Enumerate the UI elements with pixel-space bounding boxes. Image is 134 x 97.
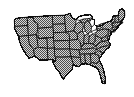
us-map-figure: United States map (0, 0, 134, 97)
state-kansas (54, 40, 70, 49)
state-arkansas (70, 49, 80, 58)
state-wyoming (38, 27, 54, 39)
state-oklahoma (55, 49, 72, 57)
state-north-dakota (53, 15, 66, 24)
state-south-dakota (53, 24, 66, 33)
us-map-svg: United States map (0, 0, 134, 97)
